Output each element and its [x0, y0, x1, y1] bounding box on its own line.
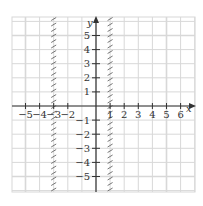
- y-tick-label: 4: [84, 44, 90, 55]
- y-tick-label: 3: [84, 58, 90, 69]
- y-tick-label: −4: [75, 157, 90, 168]
- coordinate-graph: −5−4−3−212345654321−1−2−3−4−5 x y: [0, 0, 203, 206]
- y-tick-label: −2: [75, 129, 90, 140]
- x-tick-label: 2: [121, 109, 127, 120]
- x-tick-label: 5: [163, 109, 169, 120]
- y-axis-label: y: [86, 17, 93, 28]
- x-tick-label: −2: [60, 109, 75, 120]
- y-tick-label: 5: [84, 30, 90, 41]
- y-tick-label: 2: [84, 72, 90, 83]
- x-tick-label: 1: [107, 109, 113, 120]
- x-tick-label: 6: [177, 109, 183, 120]
- x-tick-label: −5: [18, 109, 33, 120]
- x-tick-label: −3: [46, 109, 61, 120]
- y-tick-label: 1: [84, 86, 90, 97]
- y-tick-label: −1: [75, 115, 90, 126]
- x-tick-label: 4: [149, 109, 155, 120]
- x-axis-label: x: [186, 103, 192, 114]
- x-tick-label: −4: [32, 109, 47, 120]
- y-tick-label: −3: [75, 143, 90, 154]
- x-tick-label: 3: [135, 109, 141, 120]
- y-tick-label: −5: [75, 171, 90, 182]
